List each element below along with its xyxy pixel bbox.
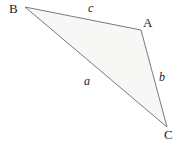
side-label-c: c [88,2,93,14]
side-label-b: b [159,71,165,83]
triangle-figure: B A C c a b [0,0,186,148]
vertex-label-a: A [143,16,152,29]
vertex-label-b: B [9,2,18,15]
vertex-label-c: C [164,128,173,141]
side-label-a: a [84,75,90,87]
